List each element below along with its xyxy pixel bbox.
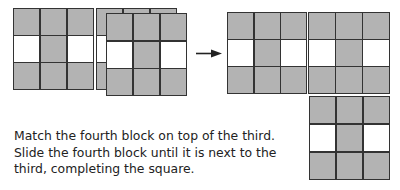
cell [309,13,335,39]
cell [281,40,306,66]
cell [228,40,253,66]
cell [255,67,280,93]
cell [228,67,253,93]
cell [134,69,159,95]
cell [310,153,335,179]
cell [336,67,362,93]
cell [364,153,389,179]
cell [363,13,389,39]
cell [337,125,362,151]
cell [14,36,39,62]
cell [281,13,306,39]
block-result-below [309,96,390,180]
cell [228,13,253,39]
cell [363,67,389,93]
block-1 [13,8,94,90]
cell [41,36,66,62]
cell [310,97,335,123]
cell [281,67,306,93]
block-result-right [308,12,390,94]
instruction-caption: Match the fourth block on top of the thi… [14,128,304,178]
cell [363,40,389,66]
block-result-left [227,12,307,94]
cell [364,97,389,123]
cell [14,63,39,89]
cell [68,63,93,89]
cell [41,63,66,89]
cell [336,13,362,39]
cell [41,9,66,35]
cell [337,97,362,123]
cell [107,69,132,95]
cell [337,153,362,179]
arrow-right-icon [196,49,222,58]
cell [107,42,132,68]
cell [68,9,93,35]
cell [134,14,159,40]
cell [255,40,280,66]
cell [161,14,186,40]
cell [336,40,362,66]
cell [255,13,280,39]
cell [14,9,39,35]
cell [134,42,159,68]
cell [309,40,335,66]
cell [161,42,186,68]
cell [310,125,335,151]
cell [68,36,93,62]
cell [364,125,389,151]
cell [309,67,335,93]
cell [107,14,132,40]
block-3-front [106,13,187,96]
cell [161,69,186,95]
